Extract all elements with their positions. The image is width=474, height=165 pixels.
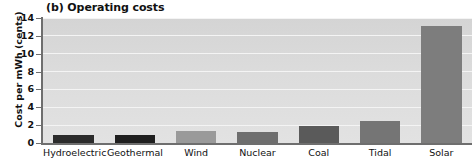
chart-title: (b) Operating costs [46, 1, 164, 14]
gridline-6 [43, 89, 472, 90]
gridline-4 [43, 107, 472, 108]
bar-tidal [360, 121, 400, 143]
y-tick-mark-4 [36, 107, 42, 108]
bar-geothermal [115, 135, 155, 143]
gridline-10 [43, 53, 472, 54]
y-tick-label-0: 0 [4, 138, 34, 148]
gridline-2 [43, 125, 472, 126]
bar-wind [176, 131, 216, 143]
y-tick-label-12: 12 [4, 31, 34, 41]
x-category-label-solar: Solar [411, 147, 472, 158]
gridline-12 [43, 35, 472, 36]
y-tick-mark-8 [36, 72, 42, 73]
bar-nuclear [237, 132, 277, 143]
y-axis-tick-labels: 02468101214 [0, 0, 34, 165]
bar-coal [299, 126, 339, 143]
x-category-label-wind: Wind [166, 147, 227, 158]
y-tick-label-2: 2 [4, 120, 34, 130]
y-tick-label-4: 4 [4, 102, 34, 112]
bar-solar [421, 26, 461, 143]
y-tick-label-8: 8 [4, 67, 34, 77]
x-category-label-tidal: Tidal [349, 147, 410, 158]
x-category-label-nuclear: Nuclear [227, 147, 288, 158]
y-tick-mark-12 [36, 36, 42, 37]
x-category-label-hydroelectric: Hydroelectric [43, 147, 104, 158]
y-tick-label-6: 6 [4, 84, 34, 94]
y-tick-mark-0 [36, 143, 42, 144]
gridline-14 [43, 18, 472, 19]
figure-panel: (b) Operating costs Cost per mWh (cents)… [0, 0, 474, 165]
gridline-8 [43, 71, 472, 72]
y-tick-label-14: 14 [4, 13, 34, 23]
x-category-label-geothermal: Geothermal [104, 147, 165, 158]
x-axis-spine [41, 143, 472, 145]
y-tick-label-10: 10 [4, 49, 34, 59]
y-tick-mark-6 [36, 89, 42, 90]
plot-area [43, 18, 472, 143]
y-tick-mark-10 [36, 54, 42, 55]
x-category-label-coal: Coal [288, 147, 349, 158]
y-tick-mark-2 [36, 125, 42, 126]
bar-hydroelectric [53, 135, 93, 143]
y-tick-mark-14 [36, 18, 42, 19]
